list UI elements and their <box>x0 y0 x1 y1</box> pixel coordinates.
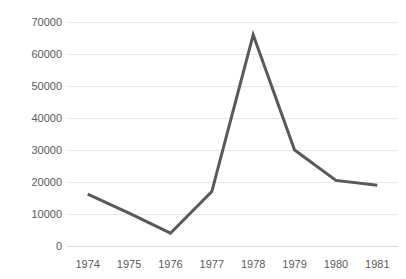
x-axis-tick-label: 1976 <box>147 259 193 270</box>
x-axis-tick-label: 1977 <box>189 259 235 270</box>
x-axis-tick-label: 1975 <box>106 259 152 270</box>
x-axis-tick-label: 1981 <box>354 259 400 270</box>
x-axis-tick-label: 1978 <box>230 259 276 270</box>
x-axis-tick-label: 1980 <box>313 259 359 270</box>
x-axis-tick-label: 1974 <box>65 259 111 270</box>
x-axis-tick-label: 1979 <box>272 259 318 270</box>
line-chart: 010000200003000040000500006000070000 197… <box>0 0 406 279</box>
x-axis-tick-labels: 19741975197619771978197919801981 <box>0 0 406 279</box>
